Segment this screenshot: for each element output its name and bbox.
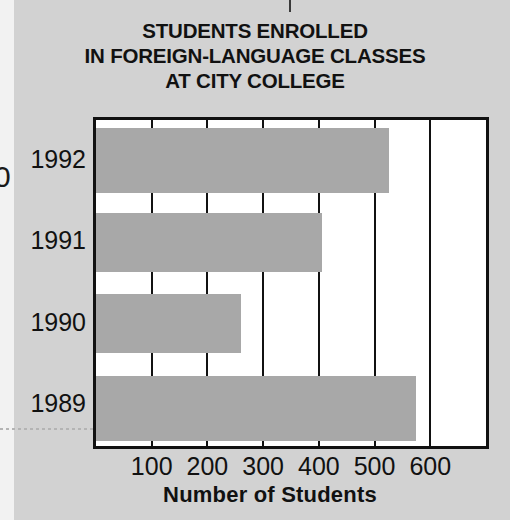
x-tick-label-600: 600 [400, 452, 460, 481]
x-tick-label-500: 500 [345, 452, 405, 481]
x-tick-label-100: 100 [122, 452, 182, 481]
bar-1992 [96, 128, 389, 193]
y-axis-label-1991: 1991 [6, 226, 86, 255]
x-tick-label-400: 400 [289, 452, 349, 481]
y-axis-category-labels: 1992199119901989 [0, 117, 86, 449]
chart-title: STUDENTS ENROLLED IN FOREIGN-LANGUAGE CL… [20, 18, 490, 93]
chart-title-line-1: STUDENTS ENROLLED [20, 18, 490, 43]
x-tick-label-300: 300 [233, 452, 293, 481]
x-axis-title: Number of Students [60, 482, 480, 508]
gridline-600 [429, 120, 431, 446]
plot-inner [96, 120, 486, 446]
x-tick-label-200: 200 [177, 452, 237, 481]
y-axis-label-1990: 1990 [6, 308, 86, 337]
y-axis-label-1989: 1989 [6, 389, 86, 418]
y-axis-label-1992: 1992 [6, 145, 86, 174]
plot-area [93, 117, 489, 449]
bar-1989 [96, 376, 416, 441]
bar-1991 [96, 213, 322, 272]
bar-1990 [96, 294, 241, 353]
bar-chart: STUDENTS ENROLLED IN FOREIGN-LANGUAGE CL… [0, 0, 510, 520]
chart-title-line-2: IN FOREIGN-LANGUAGE CLASSES [20, 43, 490, 68]
x-axis-tick-labels: 100200300400500600 [93, 452, 489, 482]
chart-title-line-3: AT CITY COLLEGE [20, 68, 490, 93]
